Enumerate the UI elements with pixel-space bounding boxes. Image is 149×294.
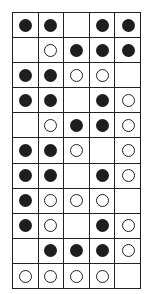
grid-cell-r4-c5 [115, 88, 141, 113]
white-circle-icon [96, 270, 109, 283]
circle-grid [12, 12, 141, 289]
grid-cell-r8-c3 [64, 189, 90, 214]
black-circle-icon [44, 169, 57, 182]
grid-cell-r6-c2 [39, 138, 65, 163]
black-circle-icon [122, 19, 135, 32]
grid-cell-r10-c4 [90, 239, 116, 264]
grid-cell-r8-c1 [13, 189, 39, 214]
grid-cell-r7-c3 [64, 164, 90, 189]
grid-cell-r11-c2 [39, 264, 65, 289]
black-circle-icon [19, 19, 32, 32]
grid-cell-r3-c2 [39, 63, 65, 88]
black-circle-icon [44, 144, 57, 157]
grid-cell-r9-c2 [39, 214, 65, 239]
grid-cell-r8-c4 [90, 189, 116, 214]
black-circle-icon [44, 19, 57, 32]
black-circle-icon [96, 44, 109, 57]
grid-cell-r1-c1 [13, 13, 39, 38]
grid-cell-r9-c4 [90, 214, 116, 239]
white-circle-icon [44, 270, 57, 283]
black-circle-icon [44, 94, 57, 107]
grid-cell-r11-c5 [115, 264, 141, 289]
white-circle-icon [122, 169, 135, 182]
black-circle-icon [70, 244, 83, 257]
black-circle-icon [96, 219, 109, 232]
black-circle-icon [70, 119, 83, 132]
white-circle-icon [44, 194, 57, 207]
black-circle-icon [96, 19, 109, 32]
white-circle-icon [96, 69, 109, 82]
black-circle-icon [19, 69, 32, 82]
grid-cell-r1-c2 [39, 13, 65, 38]
white-circle-icon [96, 194, 109, 207]
grid-cell-r9-c5 [115, 214, 141, 239]
grid-cell-r6-c1 [13, 138, 39, 163]
white-circle-icon [70, 194, 83, 207]
grid-cell-r5-c5 [115, 113, 141, 138]
grid-cell-r3-c4 [90, 63, 116, 88]
black-circle-icon [19, 219, 32, 232]
grid-cell-r2-c4 [90, 38, 116, 63]
grid-cell-r5-c1 [13, 113, 39, 138]
grid-cell-r10-c5 [115, 239, 141, 264]
white-circle-icon [122, 144, 135, 157]
white-circle-icon [122, 219, 135, 232]
white-circle-icon [122, 244, 135, 257]
grid-cell-r1-c3 [64, 13, 90, 38]
black-circle-icon [96, 94, 109, 107]
white-circle-icon [70, 144, 83, 157]
grid-cell-r10-c3 [64, 239, 90, 264]
grid-cell-r7-c1 [13, 164, 39, 189]
grid-cell-r6-c5 [115, 138, 141, 163]
grid-cell-r7-c4 [90, 164, 116, 189]
black-circle-icon [19, 169, 32, 182]
grid-cell-r1-c4 [90, 13, 116, 38]
grid-cell-r9-c3 [64, 214, 90, 239]
white-circle-icon [122, 119, 135, 132]
black-circle-icon [19, 94, 32, 107]
grid-cell-r5-c4 [90, 113, 116, 138]
black-circle-icon [44, 69, 57, 82]
black-circle-icon [19, 144, 32, 157]
grid-cell-r4-c2 [39, 88, 65, 113]
grid-cell-r11-c3 [64, 264, 90, 289]
black-circle-icon [96, 244, 109, 257]
grid-cell-r8-c2 [39, 189, 65, 214]
grid-cell-r2-c2 [39, 38, 65, 63]
grid-cell-r5-c3 [64, 113, 90, 138]
grid-cell-r3-c3 [64, 63, 90, 88]
grid-cell-r3-c5 [115, 63, 141, 88]
black-circle-icon [96, 119, 109, 132]
grid-cell-r4-c3 [64, 88, 90, 113]
grid-cell-r7-c2 [39, 164, 65, 189]
grid-cell-r3-c1 [13, 63, 39, 88]
grid-cell-r6-c3 [64, 138, 90, 163]
black-circle-icon [96, 169, 109, 182]
white-circle-icon [19, 270, 32, 283]
grid-cell-r10-c1 [13, 239, 39, 264]
grid-cell-r2-c1 [13, 38, 39, 63]
white-circle-icon [70, 270, 83, 283]
grid-cell-r7-c5 [115, 164, 141, 189]
white-circle-icon [44, 44, 57, 57]
grid-cell-r6-c4 [90, 138, 116, 163]
white-circle-icon [70, 69, 83, 82]
grid-cell-r4-c1 [13, 88, 39, 113]
grid-cell-r8-c5 [115, 189, 141, 214]
black-circle-icon [122, 44, 135, 57]
black-circle-icon [44, 244, 57, 257]
black-circle-icon [19, 194, 32, 207]
white-circle-icon [122, 94, 135, 107]
grid-cell-r1-c5 [115, 13, 141, 38]
white-circle-icon [44, 219, 57, 232]
grid-cell-r4-c4 [90, 88, 116, 113]
grid-cell-r10-c2 [39, 239, 65, 264]
black-circle-icon [70, 44, 83, 57]
grid-cell-r11-c1 [13, 264, 39, 289]
grid-cell-r11-c4 [90, 264, 116, 289]
grid-cell-r2-c3 [64, 38, 90, 63]
grid-cell-r2-c5 [115, 38, 141, 63]
grid-cell-r9-c1 [13, 214, 39, 239]
grid-cell-r5-c2 [39, 113, 65, 138]
white-circle-icon [44, 119, 57, 132]
